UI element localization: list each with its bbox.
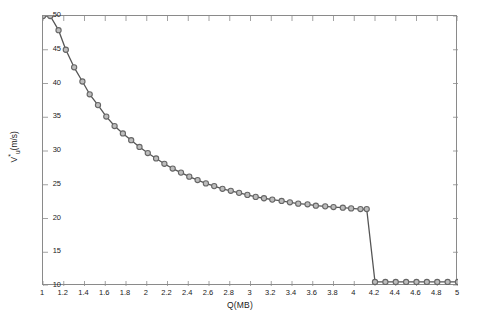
y-tick-label: 25 — [53, 180, 61, 188]
y-tick-label: 10 — [53, 281, 61, 289]
y-axis-title-unit: (m/s) — [9, 131, 19, 150]
x-tick-label: 1.4 — [78, 289, 88, 297]
y-tick-label: 15 — [53, 248, 61, 256]
x-tick-label: 2.8 — [224, 289, 234, 297]
x-tick-label: 2.4 — [182, 289, 192, 297]
x-tick-label: 3.8 — [327, 289, 337, 297]
x-tick-label: 2.2 — [161, 289, 171, 297]
y-axis-title: V*u(m/s) — [7, 87, 21, 207]
x-tick-label: 3 — [247, 289, 251, 297]
x-tick-label: 1 — [40, 289, 44, 297]
y-axis-title-subscript: u — [14, 150, 21, 154]
x-tick-label: 4.8 — [431, 289, 441, 297]
x-tick-label: 5 — [455, 289, 459, 297]
x-axis-title: Q(MB) — [0, 300, 480, 310]
x-tick-label: 3.2 — [265, 289, 275, 297]
x-tick-label: 1.6 — [99, 289, 109, 297]
x-tick-label: 4.6 — [410, 289, 420, 297]
x-tick-label: 2.6 — [203, 289, 213, 297]
y-axis-title-star: * — [7, 154, 14, 157]
y-tick-label: 20 — [53, 214, 61, 222]
y-tick-label: 30 — [53, 146, 61, 154]
x-tick-label: 1.2 — [58, 289, 68, 297]
y-tick-label: 40 — [53, 79, 61, 87]
x-tick-label: 4.4 — [390, 289, 400, 297]
x-tick-label: 2 — [144, 289, 148, 297]
y-axis-title-base: V — [9, 157, 19, 163]
y-tick-label: 50 — [53, 11, 61, 19]
x-tick-label: 3.4 — [286, 289, 296, 297]
x-tick-label: 4.2 — [369, 289, 379, 297]
y-tick-label: 45 — [53, 45, 61, 53]
x-tick-label: 4 — [351, 289, 355, 297]
plot-area — [42, 15, 457, 285]
x-tick-label: 1.8 — [120, 289, 130, 297]
y-tick-label: 35 — [53, 113, 61, 121]
figure: 11.21.41.61.822.22.42.62.833.23.43.63.84… — [0, 0, 480, 324]
x-tick-label: 3.6 — [307, 289, 317, 297]
chart-canvas — [43, 16, 458, 286]
